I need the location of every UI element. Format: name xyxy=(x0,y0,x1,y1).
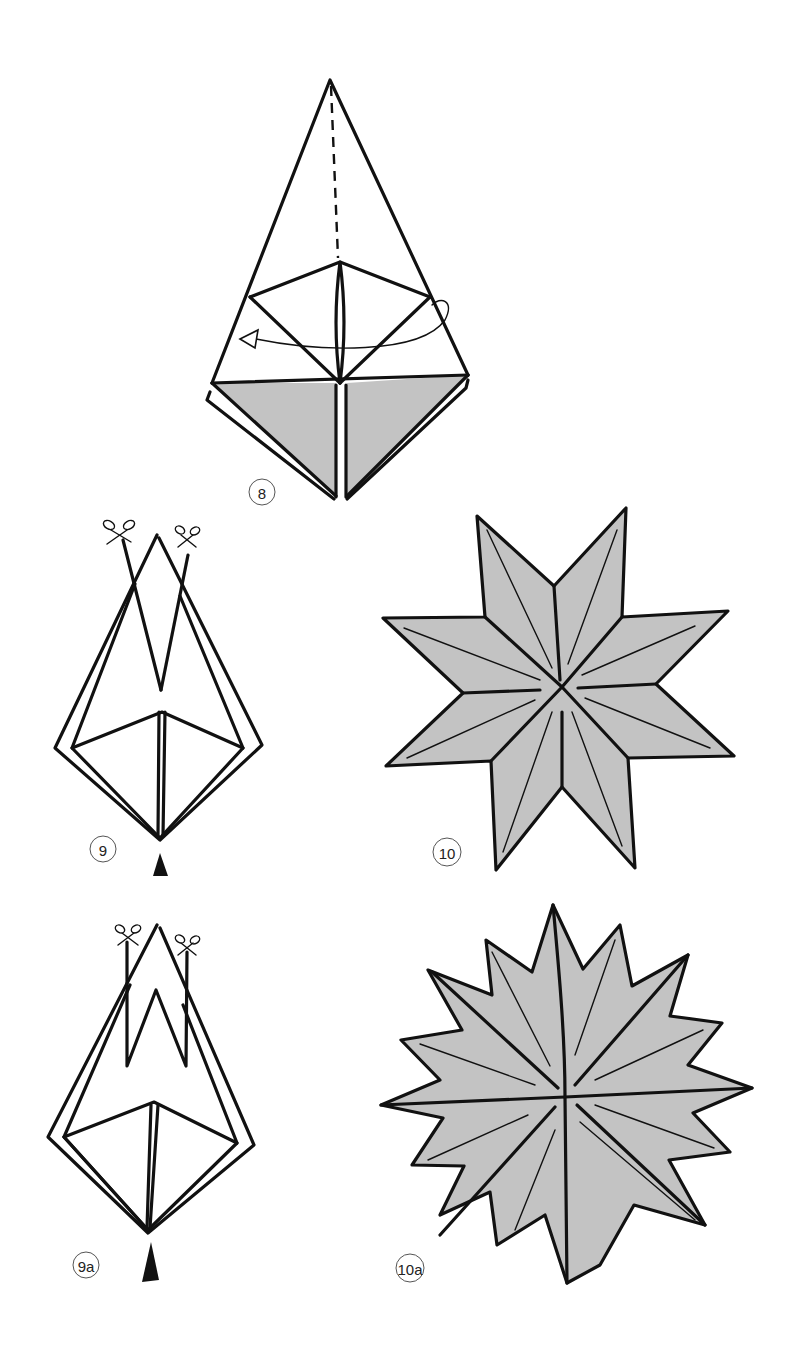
step-10-label: 10 xyxy=(433,838,461,866)
step-9-label: 9 xyxy=(90,836,116,862)
step-8-label: 8 xyxy=(249,479,275,505)
step-10a-crease xyxy=(565,1097,567,1283)
scissors-icon xyxy=(102,519,136,544)
step-8-turn-arrow-head xyxy=(240,330,258,348)
step-9-spine-left xyxy=(158,712,159,836)
step-9-cut-line-right xyxy=(161,555,188,690)
step-8-diagram: 8 xyxy=(207,80,468,505)
svg-text:8: 8 xyxy=(258,485,266,502)
step-8-dashed-fold-line xyxy=(331,86,338,258)
step-9a-outer-outline xyxy=(48,925,254,1233)
step-9-diagram: 9 xyxy=(55,519,262,876)
step-9a-label: 9a xyxy=(73,1252,99,1278)
svg-text:9: 9 xyxy=(99,842,107,859)
step-10a-label: 10a xyxy=(396,1254,424,1282)
scissors-icon xyxy=(174,524,201,547)
push-arrow-icon xyxy=(153,853,168,876)
step-8-center-spine xyxy=(336,262,344,383)
svg-text:10: 10 xyxy=(439,845,456,862)
origami-diagram-canvas: 8 9 xyxy=(0,0,797,1349)
step-9-spine-right xyxy=(163,712,165,836)
step-9-cut-line-left xyxy=(123,540,161,690)
step-9a-lower-left xyxy=(64,1137,148,1230)
step-10-star: 10 xyxy=(383,508,734,870)
step-9a-diagram: 9a xyxy=(48,923,254,1282)
push-arrow-icon xyxy=(142,1242,159,1282)
step-8-diamond-right xyxy=(340,297,430,383)
step-10a-star: 10a xyxy=(381,905,752,1283)
svg-text:9a: 9a xyxy=(78,1258,95,1275)
step-9a-w-cut xyxy=(127,942,187,1066)
svg-text:10a: 10a xyxy=(397,1261,423,1278)
